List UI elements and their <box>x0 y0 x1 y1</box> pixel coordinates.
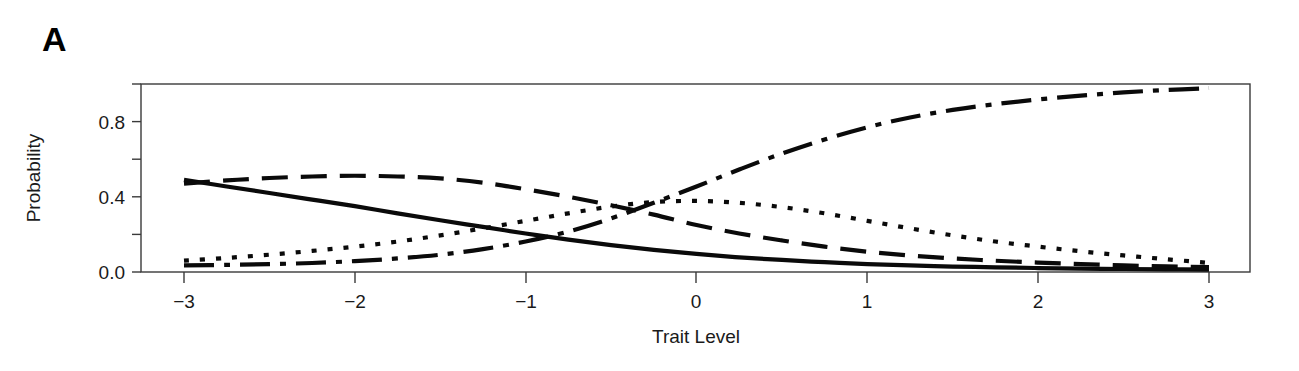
curve-dashdot <box>184 88 1209 265</box>
figure-panel-a: A 0.00.40.8 −3−2−10123 Trait Level Proba… <box>0 0 1299 371</box>
y-tick-label-0.0: 0.0 <box>99 262 125 283</box>
x-axis-ticks <box>184 272 1209 283</box>
y-axis-title: Probability <box>23 133 44 222</box>
x-tick-label-3: 3 <box>1204 291 1215 312</box>
y-tick-label-0.4: 0.4 <box>99 187 126 208</box>
x-tick-label-2: 2 <box>1033 291 1044 312</box>
y-axis-ticks <box>132 84 141 272</box>
x-tick-label--2: −2 <box>344 291 366 312</box>
data-curves-group <box>184 88 1209 269</box>
panel-label-a: A <box>42 22 67 56</box>
x-tick-label-0: 0 <box>691 291 702 312</box>
probability-trait-level-chart: 0.00.40.8 −3−2−10123 Trait Level Probabi… <box>0 0 1299 371</box>
y-axis-tick-labels: 0.00.40.8 <box>99 112 126 283</box>
x-axis-tick-labels: −3−2−10123 <box>173 291 1214 312</box>
y-tick-label-0.8: 0.8 <box>99 112 125 133</box>
x-axis-title: Trait Level <box>652 326 740 347</box>
x-tick-label--3: −3 <box>173 291 195 312</box>
x-tick-label--1: −1 <box>515 291 537 312</box>
x-tick-label-1: 1 <box>862 291 873 312</box>
